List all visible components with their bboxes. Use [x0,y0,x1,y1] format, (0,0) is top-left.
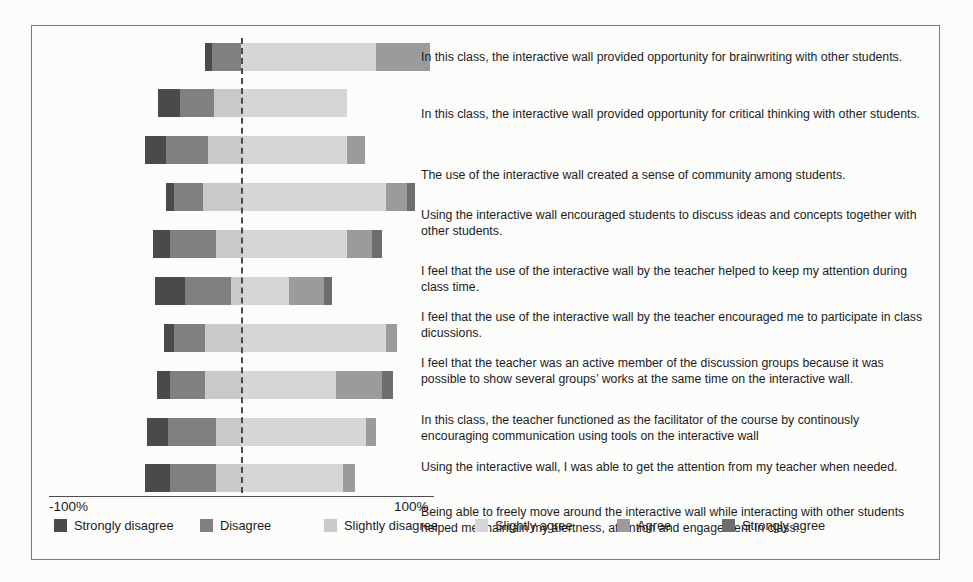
bar-segment [166,183,174,211]
bar-segment [241,43,376,71]
legend-label: Strongly disagree [74,518,174,533]
bar-segment [241,464,343,492]
bar-row [32,136,434,164]
bar-segment [205,371,241,399]
bar-segment [170,230,216,258]
bar-segment [241,418,366,446]
bar-row [32,324,434,352]
x-axis-line [49,496,434,497]
likert-chart-plot: -100% 100% [32,26,442,500]
bar-segment [157,371,170,399]
bar-segment [212,43,241,71]
bar-segment [170,464,216,492]
legend-swatch-icon [54,519,67,532]
bar-segment [241,230,347,258]
bar-segment [170,371,205,399]
bar-segment [347,230,372,258]
legend-swatch-icon [475,519,488,532]
statement-label: I feel that the use of the interactive w… [421,310,926,341]
bar-segment [347,136,364,164]
bar-segment [145,136,166,164]
legend-item: Slightly disagree [324,518,438,533]
bar-row [32,418,434,446]
bar-segment [407,183,415,211]
bar-segment [231,277,241,305]
bar-segment [324,277,332,305]
bar-segment [185,277,231,305]
bar-segment [289,277,324,305]
statement-label: Using the interactive wall, I was able t… [421,460,926,476]
legend-swatch-icon [324,519,337,532]
bar-segment [147,418,168,446]
bar-segment [153,230,170,258]
bar-segment [241,324,386,352]
legend-item: Disagree [200,518,271,533]
bar-row [32,371,434,399]
bar-segment [158,89,179,117]
bar-segment [174,324,205,352]
figure-frame: -100% 100% In this class, the interactiv… [31,25,940,560]
bar-segment [214,89,241,117]
bar-segment [343,464,355,492]
bar-row [32,277,434,305]
legend-swatch-icon [722,519,735,532]
statement-label: The use of the interactive wall created … [421,168,926,184]
bar-segment [241,183,386,211]
bar-segment [386,324,398,352]
bar-segment [205,43,213,71]
bar-segment [216,418,241,446]
statement-label: In this class, the teacher functioned as… [421,413,926,444]
statement-label: I feel that the use of the interactive w… [421,264,926,295]
bar-segment [216,464,241,492]
statement-label: In this class, the interactive wall prov… [421,107,926,123]
bar-segment [241,136,347,164]
bar-segment [241,89,347,117]
x-axis-tick-label-min: -100% [49,499,88,514]
bar-segment [145,464,170,492]
bar-segment [241,371,336,399]
legend-label: Slightly agree [495,518,573,533]
legend-item: Strongly disagree [54,518,174,533]
legend-item: Slightly agree [475,518,573,533]
chart-legend: Strongly disagreeDisagreeSlightly disagr… [32,518,912,548]
legend-label: Slightly disagree [344,518,438,533]
bar-segment [208,136,241,164]
bar-segment [241,277,289,305]
bar-row [32,89,434,117]
bar-row [32,230,434,258]
legend-item: Strongly agree [722,518,825,533]
zero-reference-line [241,38,243,493]
legend-item: Agree [617,518,671,533]
bar-row [32,183,434,211]
bar-segment [155,277,186,305]
bar-segment [382,371,394,399]
bar-segment [372,230,382,258]
bar-row [32,43,434,71]
bar-segment [336,371,382,399]
bar-segment [168,418,216,446]
legend-label: Disagree [220,518,271,533]
figure-root: -100% 100% In this class, the interactiv… [0,0,973,582]
bar-segment [366,418,376,446]
statement-label: In this class, the interactive wall prov… [421,50,926,66]
bar-segment [216,230,241,258]
bar-segment [386,183,407,211]
bar-segment [203,183,241,211]
legend-swatch-icon [200,519,213,532]
legend-swatch-icon [617,519,630,532]
bar-segment [164,324,174,352]
bar-segment [174,183,203,211]
statement-label: Using the interactive wall encouraged st… [421,208,926,239]
bar-row [32,464,434,492]
bar-segment [205,324,241,352]
legend-label: Agree [637,518,671,533]
statement-label: I feel that the teacher was an active me… [421,356,926,387]
bar-segment [166,136,208,164]
legend-label: Strongly agree [742,518,825,533]
bar-segment [180,89,215,117]
